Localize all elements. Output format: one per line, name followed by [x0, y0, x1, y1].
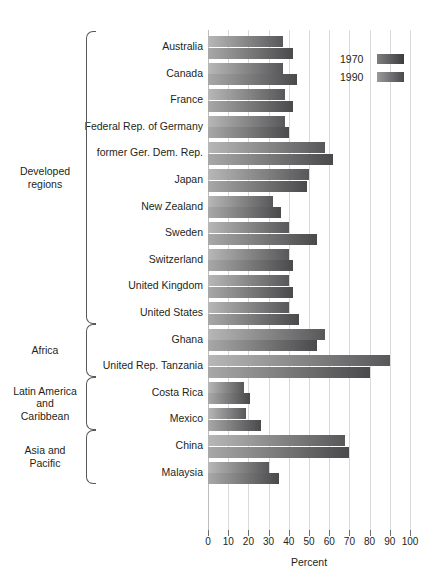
bar-group-row: [208, 222, 410, 249]
plot-bars-area: [208, 30, 410, 530]
bar-group-row: [208, 408, 410, 435]
legend-swatch-1990: [377, 72, 404, 82]
bar-group-row: [208, 116, 410, 143]
category-label: United Kingdom: [53, 279, 203, 291]
bar-group-row: [208, 196, 410, 223]
group-label-line: Latin America: [8, 385, 82, 398]
group-label-line: Pacific: [8, 457, 82, 470]
bar-group-row: [208, 382, 410, 409]
group-label: Latin AmericaandCaribbean: [8, 385, 82, 423]
group-label-line: Caribbean: [8, 410, 82, 423]
category-label: Sweden: [53, 226, 203, 238]
bar-1970: [208, 222, 289, 233]
bar-1990: [208, 207, 281, 218]
bar-1970: [208, 275, 289, 286]
bar-chart-figure: AustraliaCanadaFranceFederal Rep. of Ger…: [0, 0, 439, 580]
group-label-line: regions: [8, 178, 82, 191]
category-label: New Zealand: [53, 200, 203, 212]
x-axis-title: Percent: [208, 556, 410, 568]
group-bracket: [86, 324, 96, 378]
bar-group-row: [208, 302, 410, 329]
bar-1990: [208, 48, 293, 59]
bar-group-row: [208, 142, 410, 169]
bar-1970: [208, 249, 289, 260]
bar-1990: [208, 260, 293, 271]
legend-swatch-1970: [377, 54, 404, 64]
group-bracket: [86, 377, 96, 431]
bar-1990: [208, 287, 293, 298]
bar-group-row: [208, 462, 410, 489]
bar-1970: [208, 116, 285, 127]
x-axis: 0102030405060708090100: [208, 530, 410, 544]
bar-group-row: [208, 169, 410, 196]
legend-label-1970: 1970: [340, 53, 363, 65]
bar-group-row: [208, 355, 410, 382]
group-label: Asia andPacific: [8, 444, 82, 469]
bar-1970: [208, 435, 345, 446]
legend-label-1990: 1990: [340, 71, 363, 83]
bar-1970: [208, 36, 283, 47]
bar-1990: [208, 74, 297, 85]
bar-1970: [208, 169, 309, 180]
bar-1990: [208, 420, 261, 431]
bar-1970: [208, 63, 283, 74]
bar-group-row: [208, 275, 410, 302]
bar-1990: [208, 393, 250, 404]
group-bracket: [86, 31, 96, 324]
bar-1990: [208, 340, 317, 351]
group-label-line: Africa: [8, 344, 82, 357]
bar-1990: [208, 101, 293, 112]
bar-1970: [208, 408, 246, 419]
group-label: Africa: [8, 344, 82, 357]
bar-1990: [208, 314, 299, 325]
group-label-line: Developed: [8, 165, 82, 178]
bar-1970: [208, 462, 269, 473]
gridline-100: [410, 30, 411, 530]
category-label: Australia: [53, 40, 203, 52]
bar-1990: [208, 367, 370, 378]
category-label: Ghana: [53, 333, 203, 345]
bar-1970: [208, 329, 325, 340]
axis-tick-label: 100: [398, 536, 422, 548]
bar-1990: [208, 154, 333, 165]
bar-group-row: [208, 89, 410, 116]
bar-1990: [208, 127, 289, 138]
bar-1970: [208, 89, 285, 100]
bar-group-row: [208, 435, 410, 462]
category-label: United Rep. Tanzania: [53, 359, 203, 371]
bar-1970: [208, 355, 390, 366]
category-label: former Ger. Dem. Rep.: [53, 146, 203, 158]
bar-group-row: [208, 249, 410, 276]
category-label: Canada: [53, 67, 203, 79]
category-label: Switzerland: [53, 253, 203, 265]
group-bracket: [86, 430, 96, 484]
group-label-line: and: [8, 397, 82, 410]
group-label-line: Asia and: [8, 444, 82, 457]
bar-group-row: [208, 329, 410, 356]
category-label: France: [53, 93, 203, 105]
bar-1970: [208, 142, 325, 153]
bar-1990: [208, 234, 317, 245]
category-label: United States: [53, 306, 203, 318]
bar-1970: [208, 196, 273, 207]
bar-1990: [208, 473, 279, 484]
bar-1970: [208, 302, 289, 313]
group-label: Developedregions: [8, 165, 82, 190]
bar-1970: [208, 382, 244, 393]
bar-1990: [208, 181, 307, 192]
category-label: Federal Rep. of Germany: [53, 120, 203, 132]
bar-1990: [208, 447, 349, 458]
